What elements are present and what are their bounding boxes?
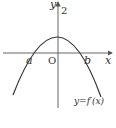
curve-label: y=f′(x) — [73, 96, 105, 106]
y-axis-label: y — [49, 0, 57, 11]
y-intercept-label: 2 — [61, 5, 67, 16]
root-b-label: b — [84, 54, 91, 67]
function-graph: y 2 x O a b y=f′(x) — [0, 0, 116, 128]
origin-label: O — [48, 55, 56, 66]
x-axis-label: x — [105, 54, 112, 67]
root-a-label: a — [26, 54, 33, 67]
